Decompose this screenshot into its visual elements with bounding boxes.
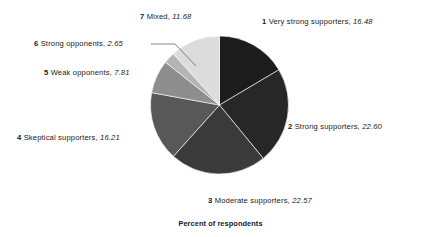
slice-label-5-text: Weak opponents, <box>51 68 112 77</box>
slice-label-4: 4 Skeptical supporters, 16.21 <box>17 133 120 143</box>
slice-label-6-number: 6 <box>34 39 38 48</box>
slice-label-3-number: 3 <box>208 196 212 205</box>
slice-label-7-text: Mixed, <box>147 12 170 21</box>
slice-label-7: 7 Mixed, 11.68 <box>140 12 191 22</box>
slice-label-5-value: 7.81 <box>114 68 129 77</box>
chart-caption: Percent of respondents <box>0 219 441 228</box>
slice-label-6-text: Strong opponents, <box>41 39 106 48</box>
slice-label-1-text: Very strong supporters, <box>269 17 351 26</box>
slice-label-7-value: 11.68 <box>172 12 191 21</box>
slice-label-3: 3 Moderate supporters, 22.57 <box>208 196 312 206</box>
pie-slice-group <box>150 36 288 174</box>
slice-label-5-number: 5 <box>44 68 48 77</box>
slice-label-2-text: Strong supporters, <box>295 122 360 131</box>
slice-label-5: 5 Weak opponents, 7.81 <box>44 68 130 78</box>
slice-label-6: 6 Strong opponents, 2.65 <box>34 39 123 49</box>
pie-chart-figure: 1 Very strong supporters, 16.48 2 Strong… <box>0 0 441 237</box>
slice-label-4-value: 16.21 <box>100 133 120 142</box>
slice-label-1-number: 1 <box>262 17 266 26</box>
slice-label-4-number: 4 <box>17 133 21 142</box>
slice-label-1-value: 16.48 <box>353 17 373 26</box>
slice-label-2-number: 2 <box>288 122 292 131</box>
slice-label-2-value: 22.60 <box>362 122 382 131</box>
slice-label-3-value: 22.57 <box>292 196 312 205</box>
slice-label-1: 1 Very strong supporters, 16.48 <box>262 17 373 27</box>
slice-label-4-text: Skeptical supporters, <box>24 133 98 142</box>
slice-label-7-number: 7 <box>140 12 144 21</box>
slice-label-2: 2 Strong supporters, 22.60 <box>288 122 382 132</box>
slice-label-6-value: 2.65 <box>108 39 123 48</box>
slice-label-3-text: Moderate supporters, <box>215 196 290 205</box>
